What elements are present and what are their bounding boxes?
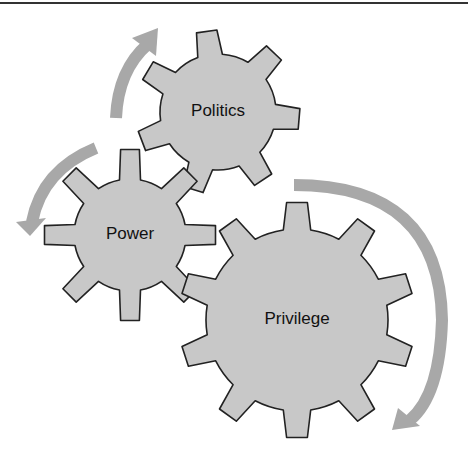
- gear-privilege: Privilege: [182, 203, 412, 438]
- arrow-head-icon: [16, 218, 46, 236]
- gear-label-privilege: Privilege: [264, 309, 329, 328]
- gear-politics: Politics: [138, 30, 300, 193]
- gear-label-politics: Politics: [191, 101, 245, 120]
- gears: PoliticsPowerPrivilege: [45, 30, 413, 438]
- gears-diagram: PoliticsPowerPrivilege: [0, 0, 468, 462]
- gear-label-power: Power: [106, 224, 155, 243]
- arrow-shaft: [116, 44, 148, 118]
